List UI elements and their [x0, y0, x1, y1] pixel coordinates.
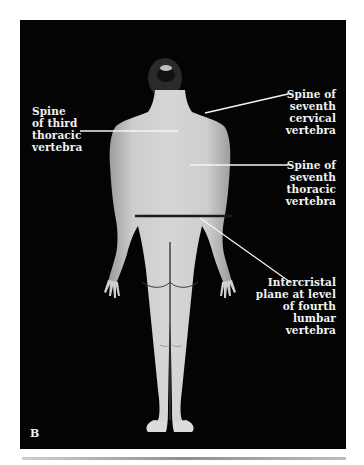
- label-intercristal-plane: Intercristal plane at level of fourth lu…: [256, 276, 336, 336]
- label-spine-seventh-cervical: Spine of seventh cervical vertebra: [286, 88, 336, 136]
- posterior-body-figure: [20, 20, 346, 449]
- feet: [146, 420, 193, 432]
- panel-letter: B: [30, 427, 39, 440]
- label-spine-third-thoracic: Spine of third thoracic vertebra: [32, 105, 82, 153]
- next-panel-edge: [22, 457, 346, 460]
- anatomy-photo-panel: Spine of third thoracic vertebra Spine o…: [20, 20, 346, 449]
- label-spine-seventh-thoracic: Spine of seventh thoracic vertebra: [286, 159, 336, 207]
